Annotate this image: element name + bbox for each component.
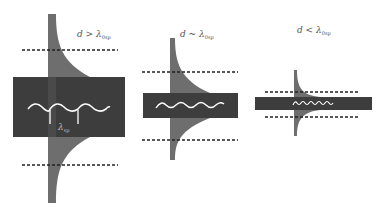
condition-label-3-sub: 0sp [322, 30, 331, 37]
svg-text:d < λ0sp: d < λ0sp [297, 25, 331, 37]
condition-label-2: d ~ λ [180, 29, 205, 39]
condition-label-2-sub: 0sp [205, 34, 214, 41]
condition-label-1-sub: 0sp [102, 34, 111, 41]
condition-label-3: d < λ [297, 25, 322, 35]
svg-text:d > λ0sp: d > λ0sp [77, 29, 111, 41]
condition-label-1: d > λ [77, 29, 102, 39]
waveguide-diagram: λsp d > λ0sp d ~ λ0sp d < λ0sp [0, 0, 383, 215]
wavelength-label-sub: sp [64, 127, 70, 134]
panel-thick-slab: λsp d > λ0sp [13, 14, 125, 203]
panel-thin-slab: d < λ0sp [255, 25, 372, 136]
svg-text:d ~ λ0sp: d ~ λ0sp [180, 29, 214, 41]
wavelength-label: λ [57, 122, 64, 132]
panel-medium-slab: d ~ λ0sp [142, 29, 238, 160]
